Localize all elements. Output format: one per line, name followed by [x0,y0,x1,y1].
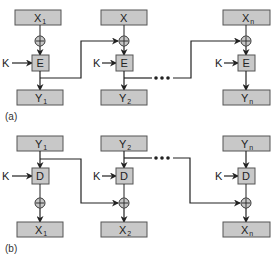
part-b-label: (b) [5,243,17,254]
chain-line-b-2-to-n [173,158,240,203]
encrypt-e-label: E [37,57,44,69]
key-k-label: K [215,57,223,69]
xor-icon [119,198,129,208]
key-k-label: K [93,170,101,182]
key-k-label: K [2,170,10,182]
part-b-decryption: Y1 K D X1 Y2 K D [2,136,270,254]
part-a-encryption: X1 K E Y1 X [2,10,270,122]
encrypt-e-label: E [121,57,128,69]
chain-line-a-2-to-n [173,41,240,78]
part-a-column-n: Xn K E Yn [215,10,270,105]
key-k-label: K [2,57,10,69]
encrypt-e-label: E [243,57,250,69]
ellipsis-icon [154,156,170,160]
decrypt-d-label: D [36,170,44,182]
part-a-column-2: X K E Y2 [93,10,147,105]
chain-line-a-1-to-2 [40,41,118,78]
cbc-mode-diagram: X1 K E Y1 X [0,0,279,260]
xor-icon [241,36,251,46]
xor-icon [119,36,129,46]
decrypt-d-label: D [242,170,250,182]
chain-line-b-1-to-2 [40,159,118,203]
key-k-label: K [93,57,101,69]
ellipsis-icon [154,76,170,80]
part-b-column-2: Y2 K D X2 [93,136,147,237]
xor-icon [35,198,45,208]
part-a-column-1: X1 K E Y1 [2,10,63,105]
plaintext-x2-label: X [120,12,128,24]
part-b-column-n: Yn K D Xn [215,136,270,237]
xor-icon [241,198,251,208]
part-b-column-1: Y1 K D X1 [2,136,63,237]
key-k-label: K [215,170,223,182]
xor-icon [35,36,45,46]
part-a-label: (a) [5,111,17,122]
decrypt-d-label: D [120,170,128,182]
